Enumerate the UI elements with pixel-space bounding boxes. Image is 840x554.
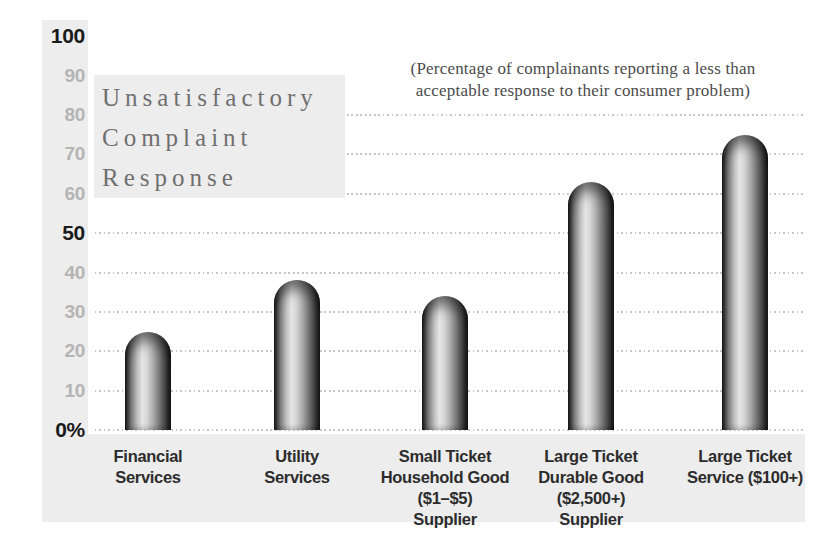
y-tick-label-50: 50 — [0, 221, 85, 245]
y-tick-label-0: 0% — [0, 418, 85, 442]
bar-2 — [274, 280, 320, 430]
y-tick-label-80: 80 — [0, 103, 85, 127]
category-label-line: Large Ticket — [655, 446, 835, 467]
chart-subtitle-line: acceptable response to their consumer pr… — [383, 80, 783, 102]
bar-1 — [125, 332, 171, 430]
chart-figure: 1009080706050403020100% FinancialService… — [0, 0, 840, 554]
y-tick-label-40: 40 — [0, 261, 85, 285]
chart-title-line: Response — [94, 158, 345, 198]
category-label-line: Durable Good — [501, 467, 681, 488]
y-tick-label-100: 100 — [0, 24, 85, 48]
category-label-4: Large TicketDurable Good($2,500+)Supplie… — [501, 446, 681, 530]
category-label-5: Large TicketService ($100+) — [655, 446, 835, 488]
category-label-line: Service ($100+) — [655, 467, 835, 488]
bar-4 — [568, 182, 614, 430]
chart-subtitle: (Percentage of complainants reporting a … — [383, 58, 783, 102]
chart-title-box: Unsatisfactory Complaint Response — [94, 75, 345, 198]
chart-title-line: Complaint — [94, 118, 345, 158]
category-label-line: Supplier — [501, 509, 681, 530]
chart-title-line: Unsatisfactory — [94, 75, 345, 118]
y-tick-label-10: 10 — [0, 379, 85, 403]
chart-subtitle-line: (Percentage of complainants reporting a … — [383, 58, 783, 80]
gridline-40 — [95, 272, 805, 274]
category-label-line: ($2,500+) — [501, 488, 681, 509]
bar-3 — [422, 296, 468, 430]
category-label-line: Large Ticket — [501, 446, 681, 467]
gridline-50 — [95, 232, 805, 234]
y-tick-label-70: 70 — [0, 142, 85, 166]
y-tick-label-90: 90 — [0, 64, 85, 88]
y-tick-label-20: 20 — [0, 339, 85, 363]
y-tick-label-30: 30 — [0, 300, 85, 324]
y-tick-label-60: 60 — [0, 182, 85, 206]
bar-5 — [722, 135, 768, 430]
